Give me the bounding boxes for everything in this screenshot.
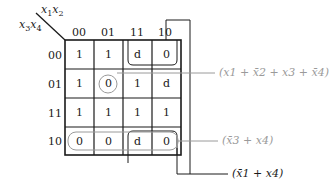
kmap-cell: 1	[123, 69, 152, 98]
kmap-cell: 1	[94, 40, 123, 69]
kmap-cell: 0	[65, 127, 94, 156]
col-header: 11	[130, 27, 144, 38]
kmap-cell: 0	[94, 69, 123, 98]
col-header: 01	[101, 27, 115, 38]
kmap-cell: 0	[152, 40, 181, 69]
kmap-cell: 1	[123, 98, 152, 127]
expression-maxterm-single: (x1 + x̄2 + x3 + x̄4)	[219, 67, 329, 78]
kmap-cell: d	[152, 69, 181, 98]
kmap-cell: 0	[152, 127, 181, 156]
col-header: 00	[72, 27, 86, 38]
row-header: 10	[48, 136, 62, 147]
kmap-cell: 1	[94, 98, 123, 127]
col-var-label: x1x2	[41, 4, 64, 19]
row-var-label: x3x4	[19, 19, 42, 34]
kmap-cell: 1	[65, 40, 94, 69]
expression-row-10: (x̄3 + x4)	[222, 135, 273, 146]
row-header: 01	[48, 79, 62, 90]
row-header: 11	[48, 108, 62, 119]
kmap-cell: d	[123, 127, 152, 156]
kmap-cell: 1	[65, 69, 94, 98]
kmap-cell: d	[123, 40, 152, 69]
kmap-cell: 1	[65, 98, 94, 127]
row-header: 00	[48, 50, 62, 61]
expression-corner-group: (x̄1 + x4)	[232, 168, 283, 179]
kmap-cell: 0	[94, 127, 123, 156]
col-header: 10	[158, 27, 172, 38]
kmap-cell: 1	[152, 98, 181, 127]
